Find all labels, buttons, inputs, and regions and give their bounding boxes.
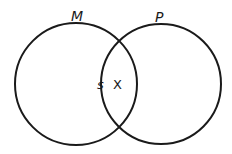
label-m: M bbox=[71, 8, 83, 24]
label-s: s bbox=[97, 77, 104, 92]
venn-diagram: M P s X bbox=[0, 0, 232, 154]
label-x: X bbox=[113, 77, 122, 92]
label-p: P bbox=[155, 9, 164, 25]
